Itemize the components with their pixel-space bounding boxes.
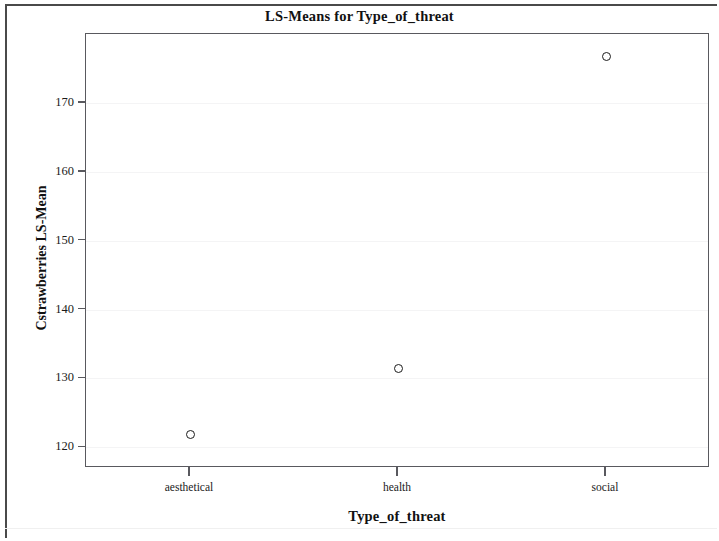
gridline	[86, 103, 708, 104]
x-tick-label: social	[525, 481, 685, 493]
x-tick	[396, 467, 398, 476]
page-border-shade	[5, 528, 717, 529]
data-point	[602, 52, 611, 61]
y-tick	[78, 101, 86, 103]
y-tick	[78, 170, 86, 172]
y-tick-label: 170	[14, 96, 74, 108]
chart-page: LS-Means for Type_of_threat 120130140150…	[0, 0, 719, 541]
gridline	[86, 378, 708, 379]
gridline	[86, 447, 708, 448]
x-tick-label: aesthetical	[109, 481, 269, 493]
page-title: LS-Means for Type_of_threat	[0, 8, 719, 25]
y-axis-label: Cstrawberries LS-Mean	[34, 128, 50, 388]
x-tick	[604, 467, 606, 476]
x-tick	[188, 467, 190, 476]
x-axis-label: Type_of_threat	[85, 508, 709, 525]
gridline	[86, 172, 708, 173]
y-tick	[78, 446, 86, 448]
y-tick	[78, 239, 86, 241]
plot-area	[85, 33, 709, 467]
gridline	[86, 241, 708, 242]
data-point	[186, 430, 195, 439]
y-tick-label: 120	[14, 440, 74, 452]
y-tick	[78, 308, 86, 310]
x-tick-label: health	[317, 481, 477, 493]
gridline	[86, 310, 708, 311]
y-tick	[78, 377, 86, 379]
data-point	[394, 364, 403, 373]
